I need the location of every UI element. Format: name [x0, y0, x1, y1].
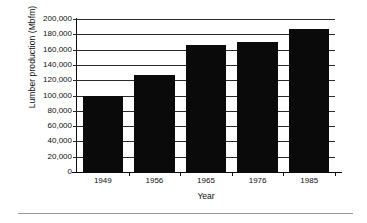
page-divider-rule — [18, 213, 353, 214]
y-axis-tick-label: 60,000 — [26, 122, 72, 130]
bar-chart-figure: Lumber production (Mbfm) 200,000180,0001… — [0, 0, 367, 223]
y-axis-tick-labels: 200,000180,000160,000140,000120,000100,0… — [26, 14, 72, 172]
x-axis-tick-label: 1985 — [283, 176, 335, 186]
y-axis-tick-label: 160,000 — [26, 46, 72, 54]
y-axis-tick-label: 0 — [26, 168, 72, 176]
x-axis-tick-label: 1956 — [129, 176, 181, 186]
y-axis-tick-label: 20,000 — [26, 153, 72, 161]
y-axis-tick-label: 120,000 — [26, 76, 72, 84]
x-axis-tick-label: 1965 — [180, 176, 232, 186]
y-axis-tick-label: 140,000 — [26, 61, 72, 69]
y-axis-tick-label: 40,000 — [26, 137, 72, 145]
bar — [289, 29, 329, 172]
y-axis-tick-label: 180,000 — [26, 30, 72, 38]
y-axis-tick-label: 200,000 — [26, 15, 72, 23]
plot-area — [77, 19, 335, 172]
y-axis-tick-label: 80,000 — [26, 107, 72, 115]
y-axis-tick-label: 100,000 — [26, 92, 72, 100]
bar — [237, 42, 277, 172]
bar-series — [77, 19, 335, 172]
x-axis-tick-mark — [335, 172, 336, 176]
x-axis-tick-label: 1976 — [232, 176, 284, 186]
x-axis-title: Year — [77, 191, 335, 201]
bar — [83, 96, 123, 172]
bar — [134, 75, 174, 172]
bar — [186, 45, 226, 172]
x-axis-tick-labels: 19491956196519761985 — [77, 176, 335, 190]
x-axis-tick-label: 1949 — [77, 176, 129, 186]
